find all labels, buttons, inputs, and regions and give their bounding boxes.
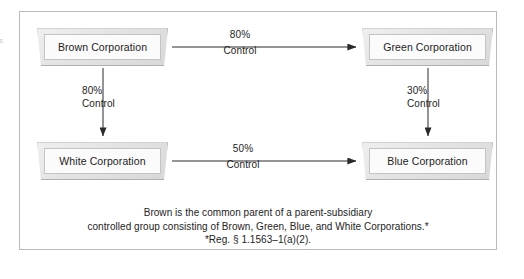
edge-percent: 30% xyxy=(407,85,440,98)
edge-percent: 50% xyxy=(213,143,273,156)
edge-label-brown-green: 80% Control xyxy=(210,29,270,57)
node-label: Blue Corporation xyxy=(387,155,467,167)
box-inner-face: Brown Corporation xyxy=(44,34,161,60)
caption-line-2: controlled group consisting of Brown, Gr… xyxy=(30,220,486,234)
edge-relation: Control xyxy=(213,159,273,172)
edge-label-green-blue: 30% Control xyxy=(407,85,440,110)
edge-label-brown-white: 80% Control xyxy=(82,85,115,110)
node-label: White Corporation xyxy=(59,155,145,167)
caption-footnote: *Reg. § 1.1563–1(a)(2). xyxy=(30,233,486,247)
node-label: Brown Corporation xyxy=(58,41,147,53)
edge-relation: Control xyxy=(407,98,440,111)
node-label: Green Corporation xyxy=(383,41,472,53)
edge-relation: Control xyxy=(82,98,115,111)
edge-relation: Control xyxy=(210,45,270,58)
node-blue-corporation[interactable]: Blue Corporation xyxy=(362,142,493,180)
node-brown-corporation[interactable]: Brown Corporation xyxy=(37,28,168,66)
edge-label-white-blue: 50% Control xyxy=(213,143,273,171)
edge-percent: 80% xyxy=(210,29,270,42)
diagram-caption: Brown is the common parent of a parent-s… xyxy=(30,206,486,247)
box-inner-face: Green Corporation xyxy=(369,34,486,60)
controlled-group-diagram: s Brown Corporation xyxy=(0,0,524,279)
node-white-corporation[interactable]: White Corporation xyxy=(37,142,168,180)
edge-percent: 80% xyxy=(82,85,115,98)
box-inner-face: White Corporation xyxy=(44,148,161,174)
box-inner-face: Blue Corporation xyxy=(369,148,486,174)
page-margin-artifact: s xyxy=(0,36,15,45)
node-green-corporation[interactable]: Green Corporation xyxy=(362,28,493,66)
caption-line-1: Brown is the common parent of a parent-s… xyxy=(30,206,486,220)
